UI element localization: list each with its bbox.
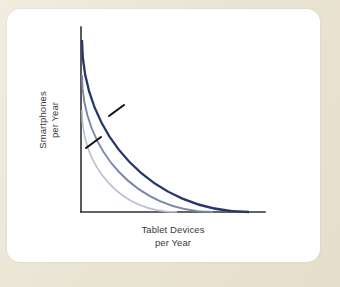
x-axis-label: Tablet Devices per Year bbox=[141, 224, 204, 248]
frontier-chart: Smartphones per Year Tablet Devices per … bbox=[7, 9, 320, 262]
x-axis-label-line1: Tablet Devices bbox=[141, 224, 204, 235]
frontier-curve-middle bbox=[82, 75, 213, 212]
y-axis-label-line1: Smartphones bbox=[37, 91, 48, 149]
figure-root: Smartphones per Year Tablet Devices per … bbox=[0, 0, 340, 287]
growth-arrow-outer-icon bbox=[109, 105, 124, 116]
y-axis-label: Smartphones per Year bbox=[37, 91, 60, 149]
x-axis-label-line2: per Year bbox=[155, 237, 191, 248]
frontier-curve-outer bbox=[82, 40, 249, 212]
chart-card: Smartphones per Year Tablet Devices per … bbox=[7, 9, 320, 262]
y-axis-label-line2: per Year bbox=[49, 102, 60, 138]
